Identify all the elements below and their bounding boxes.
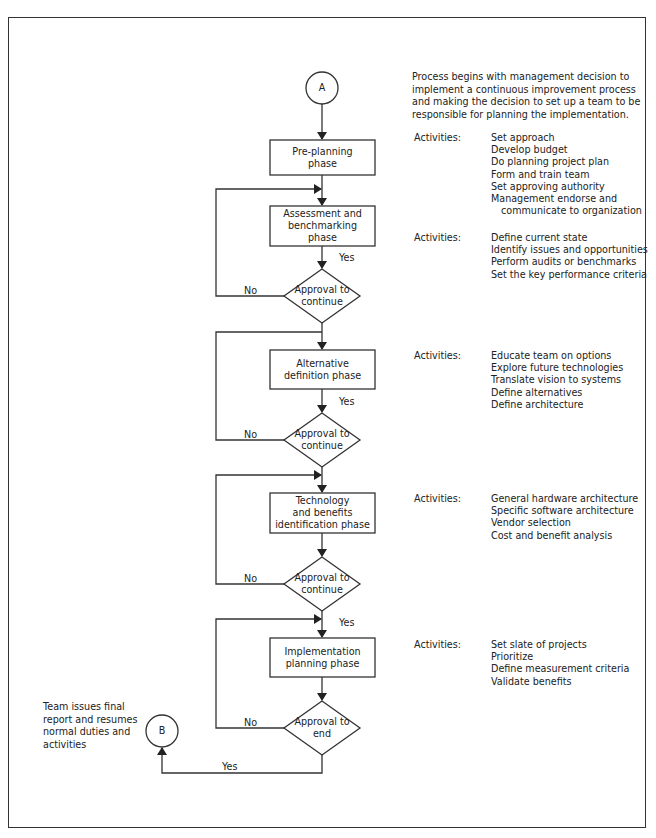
activity-item: Translate vision to systems bbox=[491, 374, 623, 386]
decision-label-line: continue bbox=[284, 440, 360, 452]
decision-label-line: continue bbox=[284, 584, 360, 596]
decision-label-line: Approval to bbox=[284, 572, 360, 584]
end-note: Team issues final report and resumes nor… bbox=[43, 701, 137, 751]
activity-item: Define current state bbox=[491, 232, 648, 244]
phase-label-line: phase bbox=[270, 232, 375, 244]
activity-item: Define measurement criteria bbox=[491, 663, 629, 675]
activity-item: Specific software architecture bbox=[491, 505, 638, 517]
intro-line: implement a continuous improvement proce… bbox=[412, 84, 640, 97]
no-label: No bbox=[244, 717, 257, 729]
activity-item: Set the key performance criteria bbox=[491, 269, 648, 281]
activity-item: Vendor selection bbox=[491, 517, 638, 529]
end-note-line: report and resumes bbox=[43, 714, 137, 727]
decision-label-line: Approval to bbox=[284, 716, 360, 728]
phase-box-assessment: Assessment and benchmarking phase bbox=[270, 208, 375, 244]
end-note-line: Team issues final bbox=[43, 701, 137, 714]
intro-line: Process begins with management decision … bbox=[412, 71, 640, 84]
decision-label-line: continue bbox=[284, 296, 360, 308]
decision-label-line: end bbox=[284, 728, 360, 740]
phase-label-line: phase bbox=[270, 158, 375, 170]
activities-heading: Activities: bbox=[414, 493, 461, 505]
activity-item: Set approach bbox=[491, 132, 642, 144]
yes-label: Yes bbox=[339, 252, 355, 264]
activity-item: Identify issues and opportunities bbox=[491, 244, 648, 256]
activity-item: Management endorse and bbox=[491, 193, 642, 205]
phase-label-line: Technology bbox=[268, 495, 377, 507]
decision-2: Approval to continue bbox=[284, 428, 360, 452]
activities-heading: Activities: bbox=[414, 350, 461, 362]
no-label: No bbox=[244, 573, 257, 585]
intro-note: Process begins with management decision … bbox=[412, 71, 640, 121]
phase-label-line: and benefits bbox=[268, 507, 377, 519]
yes-label: Yes bbox=[339, 396, 355, 408]
phase-label-line: Alternative bbox=[270, 358, 375, 370]
activity-item: Set approving authority bbox=[491, 181, 642, 193]
decision-label-line: Approval to bbox=[284, 428, 360, 440]
end-note-line: activities bbox=[43, 739, 137, 752]
connector-a-label: A bbox=[312, 82, 332, 94]
phase-label-line: planning phase bbox=[270, 658, 375, 670]
decision-4: Approval to end bbox=[284, 716, 360, 740]
activity-item: communicate to organization bbox=[491, 205, 642, 217]
end-note-line: normal duties and bbox=[43, 726, 137, 739]
yes-label: Yes bbox=[339, 617, 355, 629]
intro-line: and making the decision to set up a team… bbox=[412, 96, 640, 109]
phase-box-pre-planning: Pre-planning phase bbox=[270, 146, 375, 170]
activity-item: Do planning project plan bbox=[491, 156, 642, 168]
activity-item: Develop budget bbox=[491, 144, 642, 156]
no-label: No bbox=[244, 285, 257, 297]
activity-item: Validate benefits bbox=[491, 676, 629, 688]
activity-item: Prioritize bbox=[491, 651, 629, 663]
activity-item: General hardware architecture bbox=[491, 493, 638, 505]
activity-item: Define alternatives bbox=[491, 387, 623, 399]
phase-box-alternative: Alternative definition phase bbox=[270, 358, 375, 382]
activity-item: Explore future technologies bbox=[491, 362, 623, 374]
activity-item: Perform audits or benchmarks bbox=[491, 256, 648, 268]
phase-box-implementation: Implementation planning phase bbox=[270, 646, 375, 670]
phase-label-line: definition phase bbox=[270, 370, 375, 382]
decision-3: Approval to continue bbox=[284, 572, 360, 596]
activities-heading: Activities: bbox=[414, 232, 461, 244]
activity-item: Educate team on options bbox=[491, 350, 623, 362]
phase-box-technology: Technology and benefits identification p… bbox=[268, 495, 377, 531]
phase-label-line: Assessment and bbox=[270, 208, 375, 220]
activity-item: Cost and benefit analysis bbox=[491, 530, 638, 542]
phase-label-line: Implementation bbox=[270, 646, 375, 658]
connector-b-label: B bbox=[152, 725, 172, 737]
phase-label-line: Pre-planning bbox=[270, 146, 375, 158]
activity-item: Form and train team bbox=[491, 169, 642, 181]
decision-label-line: Approval to bbox=[284, 284, 360, 296]
activities-heading: Activities: bbox=[414, 132, 461, 144]
phase-label-line: identification phase bbox=[268, 519, 377, 531]
activities-heading: Activities: bbox=[414, 639, 461, 651]
yes-label: Yes bbox=[222, 761, 238, 773]
decision-1: Approval to continue bbox=[284, 284, 360, 308]
phase-label-line: benchmarking bbox=[270, 220, 375, 232]
activity-item: Define architecture bbox=[491, 399, 623, 411]
intro-line: responsible for planning the implementat… bbox=[412, 109, 640, 122]
no-label: No bbox=[244, 429, 257, 441]
activity-item: Set slate of projects bbox=[491, 639, 629, 651]
